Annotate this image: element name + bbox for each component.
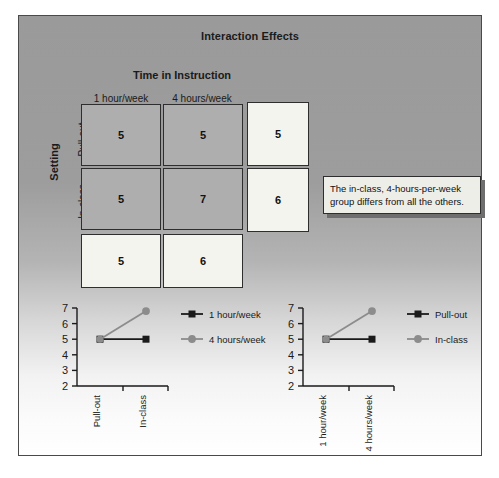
matrix-cell-margin: 6 <box>247 168 309 232</box>
matrix-cell: 5 <box>81 104 161 166</box>
y-axis: 7 6 5 4 3 2 <box>62 302 77 392</box>
page-title: Interaction Effects <box>19 30 481 42</box>
x-tick-label: 1 hour/week <box>317 395 328 447</box>
column-header-1-hour: 1 hour/week <box>81 93 161 104</box>
chart-legend: Pull-out In-class <box>407 309 468 345</box>
y-tick-label: 6 <box>62 318 68 330</box>
matrix-cell-margin: 5 <box>247 102 309 166</box>
callout-text: The in-class, 4-hours-per-week group dif… <box>330 182 474 208</box>
y-tick-label: 4 <box>288 349 294 361</box>
y-tick-label: 5 <box>62 333 68 345</box>
diagram-canvas: Interaction Effects Time in Instruction … <box>0 0 499 478</box>
y-tick-label: 2 <box>288 380 294 392</box>
chart-setting-on-x: 7 6 5 4 3 2 Pull-out In-class <box>31 294 261 434</box>
matrix-cell-margin: 6 <box>163 234 243 288</box>
callout-box: The in-class, 4-hours-per-week group dif… <box>323 176 481 214</box>
x-tick-label: Pull-out <box>91 395 102 428</box>
y-tick-label: 3 <box>62 364 68 376</box>
y-tick-label: 3 <box>288 364 294 376</box>
matrix-cell-margin: 5 <box>81 234 161 288</box>
y-tick-label: 4 <box>62 349 68 361</box>
legend-label: In-class <box>435 334 468 345</box>
legend-label: 1 hour/week <box>209 309 261 320</box>
series-in-class <box>322 307 376 343</box>
matrix-cell: 7 <box>163 168 243 230</box>
x-axis: Pull-out In-class <box>77 386 168 428</box>
series-4-hours-week <box>96 307 149 343</box>
row-group-label: Setting <box>48 122 60 202</box>
x-tick-label: 4 hours/week <box>363 395 374 452</box>
x-tick-label: In-class <box>137 395 148 428</box>
matrix-cell: 5 <box>81 168 161 230</box>
legend-label: Pull-out <box>435 309 468 320</box>
matrix-cell: 5 <box>163 104 243 166</box>
y-axis: 7 6 5 4 3 2 <box>288 302 303 392</box>
x-axis: 1 hour/week 4 hours/week <box>303 386 394 452</box>
column-group-label: Time in Instruction <box>92 69 272 81</box>
y-tick-label: 5 <box>288 333 294 345</box>
column-header-4-hours: 4 hours/week <box>159 93 245 104</box>
chart-legend: 1 hour/week 4 hours/week <box>181 309 266 345</box>
y-tick-label: 7 <box>62 302 68 314</box>
y-tick-label: 2 <box>62 380 68 392</box>
chart-time-on-x: 7 6 5 4 3 2 1 hour/week 4 hours/week <box>257 294 487 454</box>
y-tick-label: 7 <box>288 302 294 314</box>
y-tick-label: 6 <box>288 318 294 330</box>
diagram-frame: Interaction Effects Time in Instruction … <box>18 15 482 456</box>
